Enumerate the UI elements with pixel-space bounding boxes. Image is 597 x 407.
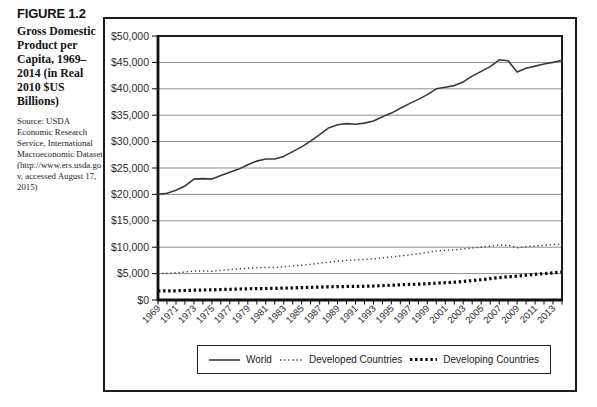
svg-text:2007: 2007 <box>481 303 504 326</box>
figure-title: Gross Domestic Product per Capita, 1969–… <box>17 25 103 108</box>
svg-text:$50,000: $50,000 <box>111 30 149 42</box>
legend-label-world: World <box>246 354 272 365</box>
svg-text:1969: 1969 <box>140 303 163 326</box>
svg-text:1993: 1993 <box>355 303 378 326</box>
svg-text:2013: 2013 <box>535 303 558 326</box>
svg-text:1995: 1995 <box>373 303 396 326</box>
svg-text:1989: 1989 <box>319 303 342 326</box>
svg-text:1973: 1973 <box>176 303 199 326</box>
svg-text:$15,000: $15,000 <box>111 214 149 226</box>
figure-1-2: FIGURE 1.2 Gross Domestic Product per Ca… <box>0 0 597 407</box>
chart-legend: World Developed Countries Developing Cou… <box>197 345 551 374</box>
svg-text:1985: 1985 <box>283 303 306 326</box>
svg-text:1999: 1999 <box>409 303 432 326</box>
legend-item-world: World <box>209 354 272 365</box>
series-line-developing-countries <box>158 272 562 291</box>
svg-text:2005: 2005 <box>463 303 486 326</box>
y-axis-grid-and-labels: $0$5,000$10,000$15,000$20,000$25,000$30,… <box>111 30 562 306</box>
svg-text:$30,000: $30,000 <box>111 135 149 147</box>
svg-text:1971: 1971 <box>158 303 181 326</box>
series-line-developed-countries <box>158 244 562 274</box>
legend-item-developed-countries: Developed Countries <box>280 354 402 365</box>
figure-source: Source: USDA Economic Research Service, … <box>17 116 103 192</box>
svg-text:1997: 1997 <box>391 303 414 326</box>
developing-countries-line-sample <box>410 356 437 363</box>
svg-text:$25,000: $25,000 <box>111 162 149 174</box>
legend-label-developing-countries: Developing Countries <box>443 354 539 365</box>
svg-text:$45,000: $45,000 <box>111 56 149 68</box>
svg-text:2009: 2009 <box>499 303 522 326</box>
developed-countries-line-sample <box>280 357 303 363</box>
svg-text:$5,000: $5,000 <box>117 267 149 279</box>
svg-text:2011: 2011 <box>517 303 539 325</box>
svg-text:$40,000: $40,000 <box>111 82 149 94</box>
svg-text:2003: 2003 <box>445 303 468 326</box>
world-line-sample <box>209 357 240 363</box>
series-line-world <box>158 60 562 195</box>
chart-outer-box: $0$5,000$10,000$15,000$20,000$25,000$30,… <box>103 17 577 392</box>
figure-label: FIGURE 1.2 <box>17 6 103 21</box>
svg-text:1983: 1983 <box>265 303 288 326</box>
figure-sidebar: FIGURE 1.2 Gross Domestic Product per Ca… <box>17 6 103 193</box>
x-axis-ticks-and-labels: 1969197119731975197719791981198319851987… <box>140 300 562 325</box>
legend-label-developed-countries: Developed Countries <box>309 354 402 365</box>
svg-text:$0: $0 <box>137 294 149 306</box>
svg-text:1987: 1987 <box>301 303 324 326</box>
svg-text:2001: 2001 <box>427 303 450 326</box>
svg-text:$20,000: $20,000 <box>111 188 149 200</box>
svg-text:1979: 1979 <box>229 303 252 326</box>
svg-text:1977: 1977 <box>211 303 234 326</box>
svg-text:1991: 1991 <box>337 303 360 326</box>
svg-text:$10,000: $10,000 <box>111 241 149 253</box>
legend-item-developing-countries: Developing Countries <box>410 354 539 365</box>
svg-text:1981: 1981 <box>247 303 270 326</box>
gdp-line-chart: $0$5,000$10,000$15,000$20,000$25,000$30,… <box>105 19 575 390</box>
svg-text:$35,000: $35,000 <box>111 109 149 121</box>
svg-text:1975: 1975 <box>194 303 217 326</box>
